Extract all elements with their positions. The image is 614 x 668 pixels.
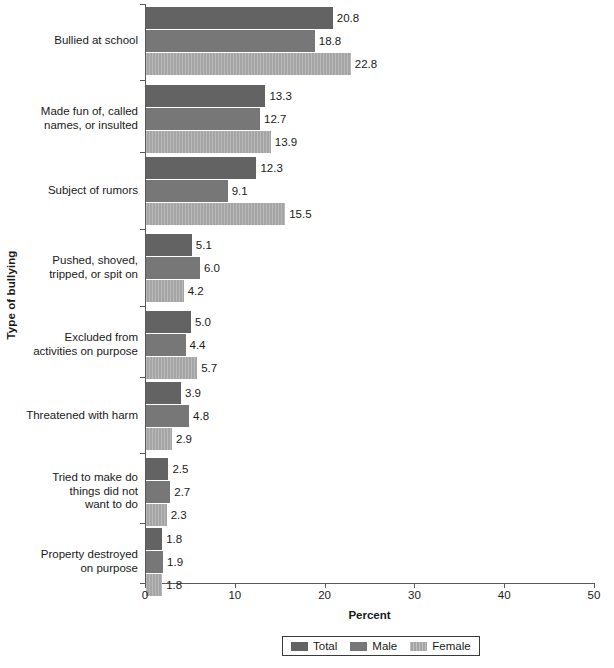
bar	[146, 481, 170, 503]
category-label: Subject of rumors	[16, 184, 138, 198]
category-label: Excluded fromactivities on purpose	[16, 331, 138, 358]
bar	[146, 257, 200, 279]
x-axis-tick-mark	[235, 583, 236, 588]
category-label-line: Excluded from	[16, 331, 138, 345]
bar-value-label: 13.3	[269, 85, 291, 107]
bar-value-label: 18.8	[319, 30, 341, 52]
legend-label: Male	[372, 640, 397, 652]
category-label-line: Property destroyed	[16, 548, 138, 562]
category-label: Pushed, shoved,tripped, or spit on	[16, 254, 138, 281]
x-axis-tick-mark	[594, 583, 595, 588]
y-axis-tick	[140, 377, 145, 378]
bar	[146, 234, 192, 256]
category-label: Bullied at school	[16, 34, 138, 48]
category-label-line: on purpose	[16, 562, 138, 576]
y-axis-tick	[140, 229, 145, 230]
bar-value-label: 3.9	[185, 382, 201, 404]
y-axis-tick	[140, 453, 145, 454]
y-axis-tick	[140, 152, 145, 153]
bar	[146, 203, 285, 225]
bar-value-label: 1.9	[167, 551, 183, 573]
bars-layer: 20.818.822.813.312.713.912.39.115.55.16.…	[146, 0, 614, 583]
x-axis-tick-mark	[414, 583, 415, 588]
category-label-line: tripped, or spit on	[16, 268, 138, 282]
y-axis-tick	[140, 523, 145, 524]
x-axis-tick-mark	[325, 583, 326, 588]
category-label: Made fun of, callednames, or insulted	[16, 105, 138, 132]
bar-value-label: 2.9	[176, 428, 192, 450]
bar	[146, 30, 315, 52]
bar	[146, 334, 186, 356]
category-label-line: Bullied at school	[16, 34, 138, 48]
legend-item-total[interactable]: Total	[291, 640, 337, 652]
legend-swatch-male	[350, 642, 367, 651]
category-label-line: want to do	[16, 498, 138, 512]
category-label-line: activities on purpose	[16, 345, 138, 359]
x-axis-title: Percent	[145, 609, 594, 621]
legend-item-male[interactable]: Male	[350, 640, 397, 652]
y-axis-tick	[140, 4, 145, 5]
bar	[146, 131, 271, 153]
bar	[146, 528, 162, 550]
x-axis-tick-label: 20	[318, 589, 331, 601]
bar-value-label: 2.7	[174, 481, 190, 503]
bar	[146, 7, 333, 29]
bar-value-label: 2.5	[172, 458, 188, 480]
bar	[146, 180, 228, 202]
bar	[146, 551, 163, 573]
bar-value-label: 2.3	[171, 504, 187, 526]
bar	[146, 405, 189, 427]
category-label-line: Pushed, shoved,	[16, 254, 138, 268]
category-label-line: Subject of rumors	[16, 184, 138, 198]
bar	[146, 280, 184, 302]
category-label-line: Threatened with harm	[16, 409, 138, 423]
bar-value-label: 22.8	[355, 53, 377, 75]
bar-value-label: 12.7	[264, 108, 286, 130]
legend-swatch-total	[291, 642, 308, 651]
x-axis-tick-mark	[145, 583, 146, 588]
x-axis-tick-label: 0	[142, 589, 148, 601]
bar	[146, 428, 172, 450]
category-labels: Bullied at schoolMade fun of, calledname…	[18, 0, 142, 583]
bar-value-label: 5.0	[195, 311, 211, 333]
category-label-line: things did not	[16, 485, 138, 499]
x-axis-tick-label: 50	[588, 589, 601, 601]
x-axis-tick-label: 10	[228, 589, 241, 601]
y-axis-tick	[140, 306, 145, 307]
bar-chart: Type of bullying Bullied at schoolMade f…	[0, 0, 614, 668]
bar-value-label: 13.9	[275, 131, 297, 153]
bar-value-label: 1.8	[166, 528, 182, 550]
x-axis-tick-mark	[504, 583, 505, 588]
bar-value-label: 20.8	[337, 7, 359, 29]
bar-value-label: 4.4	[190, 334, 206, 356]
bar-value-label: 4.8	[193, 405, 209, 427]
bar	[146, 85, 265, 107]
legend-label: Female	[432, 640, 470, 652]
bar-value-label: 6.0	[204, 257, 220, 279]
category-label: Property destroyedon purpose	[16, 548, 138, 575]
bar-value-label: 5.1	[196, 234, 212, 256]
legend-label: Total	[313, 640, 337, 652]
legend-swatch-female	[410, 642, 427, 651]
bar	[146, 504, 167, 526]
bar-value-label: 12.3	[260, 157, 282, 179]
bar-value-label: 5.7	[201, 357, 217, 379]
x-axis-tick-label: 30	[408, 589, 421, 601]
chart-legend: TotalMaleFemale	[282, 636, 480, 656]
category-label: Threatened with harm	[16, 409, 138, 423]
y-axis-tick	[140, 80, 145, 81]
bar	[146, 458, 168, 480]
x-axis-ticks: 01020304050	[0, 583, 614, 609]
bar	[146, 108, 260, 130]
category-label-line: Made fun of, called	[16, 105, 138, 119]
category-label-line: Tried to make do	[16, 471, 138, 485]
legend-item-female[interactable]: Female	[410, 640, 470, 652]
plot-area: Bullied at schoolMade fun of, calledname…	[0, 0, 614, 592]
bar	[146, 53, 351, 75]
bar	[146, 157, 256, 179]
bar	[146, 357, 197, 379]
category-label-line: names, or insulted	[16, 119, 138, 133]
x-axis-tick-label: 40	[498, 589, 511, 601]
bar-value-label: 9.1	[232, 180, 248, 202]
category-label: Tried to make dothings did notwant to do	[16, 471, 138, 512]
